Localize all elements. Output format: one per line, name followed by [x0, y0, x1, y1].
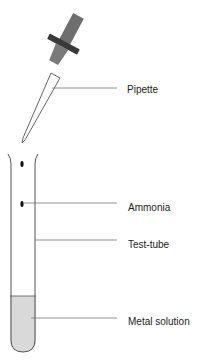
label-metal-solution: Metal solution: [128, 316, 190, 327]
pipette: [22, 8, 117, 143]
ammonia-drop-falling: [20, 161, 23, 167]
test-tube: [8, 154, 38, 352]
pipette-bulb: [59, 13, 84, 45]
ammonia-drop: [20, 201, 23, 207]
metal-solution-fill: [10, 296, 36, 352]
pipette-stem: [22, 73, 60, 143]
label-test-tube: Test-tube: [128, 239, 169, 250]
diagram-canvas: [0, 0, 205, 361]
label-ammonia: Ammonia: [128, 202, 170, 213]
label-pipette: Pipette: [127, 84, 158, 95]
